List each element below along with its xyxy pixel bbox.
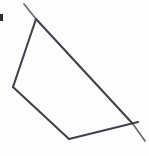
segment-bottom-edge: [69, 122, 138, 139]
figure-canvas: Quadrilateral outline sketch Hand-drawn …: [0, 0, 149, 156]
segment-left-lower-edge: [13, 87, 69, 139]
segment-left-upper-edge: [13, 19, 36, 87]
segment-top-diagonal-overshoot: [24, 4, 36, 19]
segment-long-diagonal: [36, 19, 133, 124]
left-edge-mark: [0, 14, 3, 21]
segment-diagonal-overshoot: [133, 124, 145, 141]
line-figure: [0, 0, 149, 156]
